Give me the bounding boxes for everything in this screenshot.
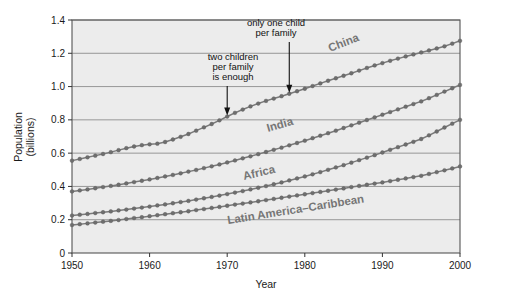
data-point <box>202 196 206 200</box>
data-point <box>458 83 462 87</box>
data-point <box>427 133 431 137</box>
data-point <box>241 189 245 193</box>
data-point <box>132 216 136 220</box>
data-point <box>280 146 284 150</box>
data-point <box>93 211 97 215</box>
data-point <box>435 47 439 51</box>
data-point <box>218 118 222 122</box>
data-point <box>117 148 121 152</box>
data-point <box>450 167 454 171</box>
data-point <box>450 86 454 90</box>
data-point <box>311 172 315 176</box>
data-point <box>132 207 136 211</box>
y-axis-title-line2: (billions) <box>24 117 36 156</box>
data-point <box>326 168 330 172</box>
data-point <box>419 137 423 141</box>
data-point <box>187 209 191 213</box>
data-point <box>443 90 447 94</box>
data-point <box>295 194 299 198</box>
x-tick-label: 2000 <box>449 260 472 271</box>
data-point <box>412 102 416 106</box>
data-point <box>256 152 260 156</box>
data-point <box>458 118 462 122</box>
data-point <box>404 143 408 147</box>
data-point <box>78 222 82 226</box>
data-point <box>194 208 198 212</box>
data-point <box>342 126 346 130</box>
data-point <box>78 213 82 217</box>
y-tick-label: 1.0 <box>51 81 65 92</box>
data-point <box>443 44 447 48</box>
x-tick-label: 1960 <box>138 260 161 271</box>
data-point <box>404 55 408 59</box>
data-point <box>388 148 392 152</box>
data-point <box>155 213 159 217</box>
data-point <box>404 105 408 109</box>
data-point <box>70 214 74 218</box>
data-point <box>295 177 299 181</box>
data-point <box>412 175 416 179</box>
data-point <box>326 189 330 193</box>
data-point <box>171 211 175 215</box>
data-point <box>86 212 90 216</box>
y-tick-label: 0.8 <box>51 114 65 125</box>
data-point <box>140 143 144 147</box>
y-axis-title-line1: Population <box>12 112 24 162</box>
data-point <box>225 192 229 196</box>
data-point <box>435 130 439 134</box>
data-point <box>419 51 423 55</box>
data-point <box>365 156 369 160</box>
data-point <box>86 188 90 192</box>
data-point <box>318 170 322 174</box>
data-point <box>427 172 431 176</box>
data-point <box>93 154 97 158</box>
data-point <box>256 186 260 190</box>
x-tick-label: 1970 <box>216 260 239 271</box>
data-point <box>194 198 198 202</box>
data-point <box>140 179 144 183</box>
data-point <box>109 150 113 154</box>
data-point <box>326 79 330 83</box>
data-point <box>365 183 369 187</box>
data-point <box>303 175 307 179</box>
data-point <box>396 107 400 111</box>
data-point <box>93 186 97 190</box>
data-point <box>117 208 121 212</box>
data-point <box>326 131 330 135</box>
data-point <box>287 143 291 147</box>
data-point <box>249 154 253 158</box>
data-point <box>210 206 214 210</box>
y-tick-label: 1.4 <box>51 15 65 26</box>
data-point <box>311 191 315 195</box>
data-point <box>458 39 462 43</box>
data-point <box>163 203 167 207</box>
data-point <box>233 111 237 115</box>
x-tick-label: 1950 <box>61 260 84 271</box>
data-point <box>272 182 276 186</box>
data-point <box>233 203 237 207</box>
data-point <box>349 123 353 127</box>
annotation-text-line: is enough <box>212 71 253 82</box>
data-point <box>86 221 90 225</box>
data-point <box>342 187 346 191</box>
y-axis-ticks: 00.20.40.60.81.01.21.4 <box>51 15 72 259</box>
data-point <box>155 204 159 208</box>
data-point <box>163 175 167 179</box>
data-point <box>357 121 361 125</box>
data-point <box>443 168 447 172</box>
data-point <box>373 115 377 119</box>
data-point <box>171 173 175 177</box>
y-tick-label: 0.4 <box>51 181 65 192</box>
data-point <box>101 185 105 189</box>
data-point <box>381 61 385 65</box>
data-point <box>171 138 175 142</box>
data-point <box>458 165 462 169</box>
data-point <box>295 141 299 145</box>
data-point <box>381 181 385 185</box>
data-point <box>124 217 128 221</box>
data-point <box>396 178 400 182</box>
data-point <box>225 204 229 208</box>
data-point <box>357 184 361 188</box>
data-point <box>303 192 307 196</box>
data-point <box>187 199 191 203</box>
